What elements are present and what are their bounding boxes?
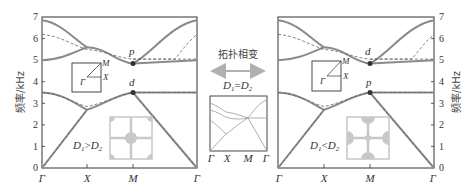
degeneracy-point-upper-left	[131, 61, 136, 66]
y-axis-title-right: 频率/kHz	[450, 71, 462, 113]
svg-text:6: 6	[33, 33, 38, 44]
svg-text:6: 6	[439, 33, 444, 44]
x-tick-labels-middle: Γ X M Γ	[207, 152, 270, 164]
degeneracy-point-lower-left	[131, 90, 136, 95]
svg-text:Γ: Γ	[429, 172, 437, 184]
svg-text:5: 5	[33, 54, 38, 65]
svg-text:3: 3	[33, 98, 38, 109]
svg-text:1: 1	[439, 141, 444, 152]
svg-text:7: 7	[33, 11, 38, 22]
y-axis-title-left: 频率/kHz	[14, 71, 26, 113]
svg-text:Γ: Γ	[193, 172, 201, 184]
svg-text:X: X	[223, 152, 232, 164]
svg-text:4: 4	[33, 76, 38, 87]
svg-text:X: X	[320, 172, 329, 184]
x-tick-labels-right: Γ X M Γ	[275, 172, 437, 184]
svg-text:0: 0	[439, 162, 444, 173]
condition-middle: D1=D2	[222, 79, 253, 93]
svg-text:4: 4	[439, 76, 444, 87]
unit-cell-left	[110, 117, 152, 159]
right-panel: d p M X Γ D1<D2 Γ X M Γ	[275, 11, 462, 184]
figure-canvas: 频率/kHz 0 1 2 3 4 5 6 7	[0, 0, 473, 196]
svg-text:3: 3	[439, 98, 444, 109]
svg-text:M: M	[364, 172, 375, 184]
point-label-p-right: p	[365, 76, 372, 88]
point-label-d-left: d	[129, 76, 135, 88]
left-panel: 频率/kHz 0 1 2 3 4 5 6 7	[14, 11, 201, 184]
svg-text:5: 5	[439, 54, 444, 65]
svg-text:M: M	[127, 172, 138, 184]
svg-text:M: M	[341, 56, 350, 66]
svg-text:Γ: Γ	[319, 76, 326, 86]
y-tick-labels-right: 0 1 2 3 4 5 6 7	[439, 11, 444, 173]
degeneracy-point-lower-right	[368, 90, 373, 95]
brillouin-zone-inset-left: M X Γ	[72, 58, 110, 92]
svg-text:Γ: Γ	[207, 152, 215, 164]
svg-text:Γ: Γ	[79, 77, 86, 87]
middle-inset-frame	[210, 96, 267, 151]
degeneracy-point-upper-right	[368, 61, 373, 66]
x-tick-labels-left: Γ X M Γ	[38, 172, 201, 184]
svg-text:M: M	[242, 152, 253, 164]
brillouin-zone-inset-right: M X Γ	[312, 56, 350, 91]
svg-text:Γ: Γ	[38, 172, 46, 184]
svg-text:Γ: Γ	[275, 172, 283, 184]
svg-text:0: 0	[33, 162, 38, 173]
svg-text:2: 2	[33, 119, 38, 130]
middle-panel: 拓扑相变 D1=D2 Γ X M Γ	[207, 48, 270, 164]
svg-text:Γ: Γ	[262, 152, 270, 164]
topological-transition-label: 拓扑相变	[218, 48, 258, 60]
svg-text:X: X	[83, 172, 92, 184]
svg-text:X: X	[102, 72, 109, 82]
unit-cell-right	[347, 117, 389, 159]
point-label-d-right: d	[365, 45, 371, 57]
condition-right: D1<D2	[309, 139, 340, 153]
condition-left: D1>D2	[72, 139, 103, 153]
y-tick-labels-left: 0 1 2 3 4 5 6 7	[33, 11, 38, 173]
svg-text:M: M	[101, 58, 110, 68]
svg-text:X: X	[342, 71, 349, 81]
svg-text:7: 7	[439, 11, 444, 22]
point-label-p-left: p	[128, 45, 135, 57]
svg-text:2: 2	[439, 119, 444, 130]
svg-text:1: 1	[33, 141, 38, 152]
